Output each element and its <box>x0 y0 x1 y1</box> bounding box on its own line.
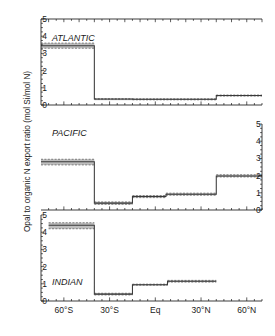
y-tick-label: 1 <box>256 188 261 198</box>
y-tick-label: 2 <box>42 66 47 76</box>
step-plot-svg: 012345ATLANTIC012345PACIFIC01234560°S30°… <box>0 0 275 336</box>
y-tick-label: 5 <box>42 14 47 24</box>
panel-indian: 01234560°S30°SEq30°N60°NINDIAN <box>41 210 262 315</box>
y-tick-label: 2 <box>256 171 261 181</box>
y-tick-label: 0 <box>42 296 47 306</box>
panel-title-indian: INDIAN <box>52 277 83 287</box>
y-tick-label: 4 <box>42 31 47 41</box>
figure-container: Opal to organic N export ratio (mol Si/m… <box>0 0 275 336</box>
y-axis-title: Opal to organic N export ratio (mol Si/m… <box>23 47 32 257</box>
panel-title-pacific: PACIFIC <box>52 128 87 138</box>
panels-group: 012345ATLANTIC012345PACIFIC01234560°S30°… <box>41 14 262 315</box>
y-tick-label: 3 <box>42 244 47 254</box>
y-tick-label: 5 <box>42 210 47 220</box>
y-tick-label: 0 <box>42 100 47 110</box>
y-tick-label: 0 <box>256 205 261 215</box>
y-tick-label: 3 <box>256 153 261 163</box>
y-tick-label: 5 <box>256 119 261 129</box>
x-tick-label: Eq <box>150 305 161 315</box>
y-tick-label: 4 <box>42 227 47 237</box>
panel-pacific: 012345PACIFIC <box>41 119 262 215</box>
panel-title-atlantic: ATLANTIC <box>51 33 95 43</box>
panel-atlantic: 012345ATLANTIC <box>41 14 262 110</box>
y-tick-label: 4 <box>256 136 261 146</box>
y-tick-label: 3 <box>42 48 47 58</box>
y-tick-label: 1 <box>42 279 47 289</box>
x-tick-label: 30°S <box>100 305 119 315</box>
x-tick-label: 60°N <box>237 305 256 315</box>
y-tick-label: 2 <box>42 262 47 272</box>
x-tick-label: 60°S <box>55 305 74 315</box>
step-line <box>41 162 262 203</box>
y-tick-label: 1 <box>42 83 47 93</box>
step-line <box>41 46 262 100</box>
x-tick-label: 30°N <box>192 305 211 315</box>
